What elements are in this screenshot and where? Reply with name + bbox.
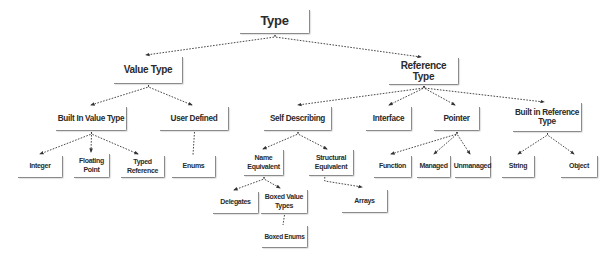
- node-boxed-value-types: Boxed Value Types: [261, 190, 308, 214]
- connector-name-equivalent-to-delegates: [234, 177, 264, 190]
- node-label: Built In Value Type: [58, 114, 124, 123]
- node-string: String: [502, 156, 535, 178]
- node-interface: Interface: [366, 107, 412, 131]
- node-label: Enums: [183, 162, 205, 170]
- node-label: String: [509, 162, 527, 170]
- node-reference-type: Reference Type: [389, 58, 459, 85]
- connector-built-in-value-type-to-integer: [40, 132, 92, 154]
- node-type: Type: [240, 10, 310, 34]
- node-unmanaged: Unmanaged: [455, 156, 491, 178]
- node-managed: Managed: [417, 156, 451, 178]
- node-function: Function: [374, 156, 412, 178]
- connector-reference-type-to-pointer: [424, 86, 455, 105]
- node-label: Structural Equivalent: [309, 154, 353, 170]
- connector-built-in-value-type-to-floating-point: [91, 132, 92, 152]
- node-structural-equivalent: Structural Equivalent: [309, 150, 354, 176]
- node-self-describing: Self Describing: [264, 107, 332, 131]
- node-label: Managed: [419, 162, 447, 170]
- node-label: Object: [569, 162, 589, 170]
- node-label: Self Describing: [270, 114, 325, 123]
- node-label: Function: [379, 162, 406, 170]
- connector-name-equivalent-to-boxed-value-types: [264, 177, 280, 188]
- node-value-type: Value Type: [114, 57, 183, 84]
- connector-type-to-reference-type: [275, 35, 421, 57]
- node-enums: Enums: [172, 156, 216, 178]
- node-boxed-enums: Boxed Enums: [262, 226, 308, 248]
- connector-self-describing-to-name-equivalent: [263, 132, 298, 149]
- node-typed-reference: Typed Reference: [121, 156, 165, 178]
- connector-boxed-value-types-to-boxed-enums: [283, 215, 285, 225]
- connector-reference-type-to-built-in-reference-type: [424, 86, 544, 102]
- node-label: Type: [260, 14, 288, 29]
- node-floating-point: Floating Point: [74, 154, 110, 178]
- connector-pointer-to-managed: [434, 132, 457, 154]
- node-label: Typed Reference: [121, 158, 164, 174]
- node-arrays: Arrays: [342, 190, 388, 213]
- node-built-in-reference-type: Built in Reference Type: [513, 103, 582, 132]
- node-name-equivalent: Name Equivalent: [244, 150, 284, 176]
- connector-pointer-to-unmanaged: [457, 132, 470, 154]
- connector-built-in-reference-type-to-object: [548, 133, 575, 154]
- node-object: Object: [561, 156, 598, 178]
- node-label: Reference Type: [389, 60, 458, 83]
- type-hierarchy-diagram: TypeValue TypeReference TypeBuilt In Val…: [0, 0, 608, 262]
- connector-value-type-to-user-defined: [149, 85, 193, 105]
- node-label: Built in Reference Type: [513, 108, 581, 127]
- node-label: User Defined: [171, 114, 218, 123]
- connector-pointer-to-function: [391, 132, 457, 154]
- node-integer: Integer: [18, 156, 63, 178]
- connector-type-to-value-type: [146, 35, 275, 55]
- node-label: Interface: [373, 114, 404, 123]
- connector-built-in-value-type-to-typed-reference: [92, 132, 139, 154]
- node-label: Value Type: [124, 64, 173, 76]
- node-pointer: Pointer: [434, 107, 480, 131]
- connector-structural-equivalent-to-arrays: [325, 177, 362, 187]
- node-label: Pointer: [443, 114, 469, 123]
- node-built-in-value-type: Built In Value Type: [56, 107, 127, 131]
- node-label: Name Equivalent: [244, 154, 283, 170]
- node-delegates: Delegates: [213, 192, 259, 214]
- connector-user-defined-to-enums: [193, 132, 195, 155]
- node-label: Arrays: [354, 197, 374, 205]
- connector-value-type-to-built-in-value-type: [91, 85, 149, 105]
- connector-self-describing-to-structural-equivalent: [298, 132, 327, 149]
- node-label: Integer: [29, 162, 50, 170]
- node-label: Boxed Value Types: [261, 193, 307, 209]
- connector-reference-type-to-interface: [389, 86, 424, 105]
- node-label: Boxed Enums: [264, 233, 304, 240]
- connector-built-in-reference-type-to-string: [518, 133, 548, 154]
- node-label: Delegates: [220, 198, 250, 206]
- connector-reference-type-to-self-describing: [298, 86, 424, 105]
- node-label: Floating Point: [74, 157, 109, 173]
- node-user-defined: User Defined: [160, 107, 229, 131]
- node-label: Unmanaged: [454, 162, 491, 170]
